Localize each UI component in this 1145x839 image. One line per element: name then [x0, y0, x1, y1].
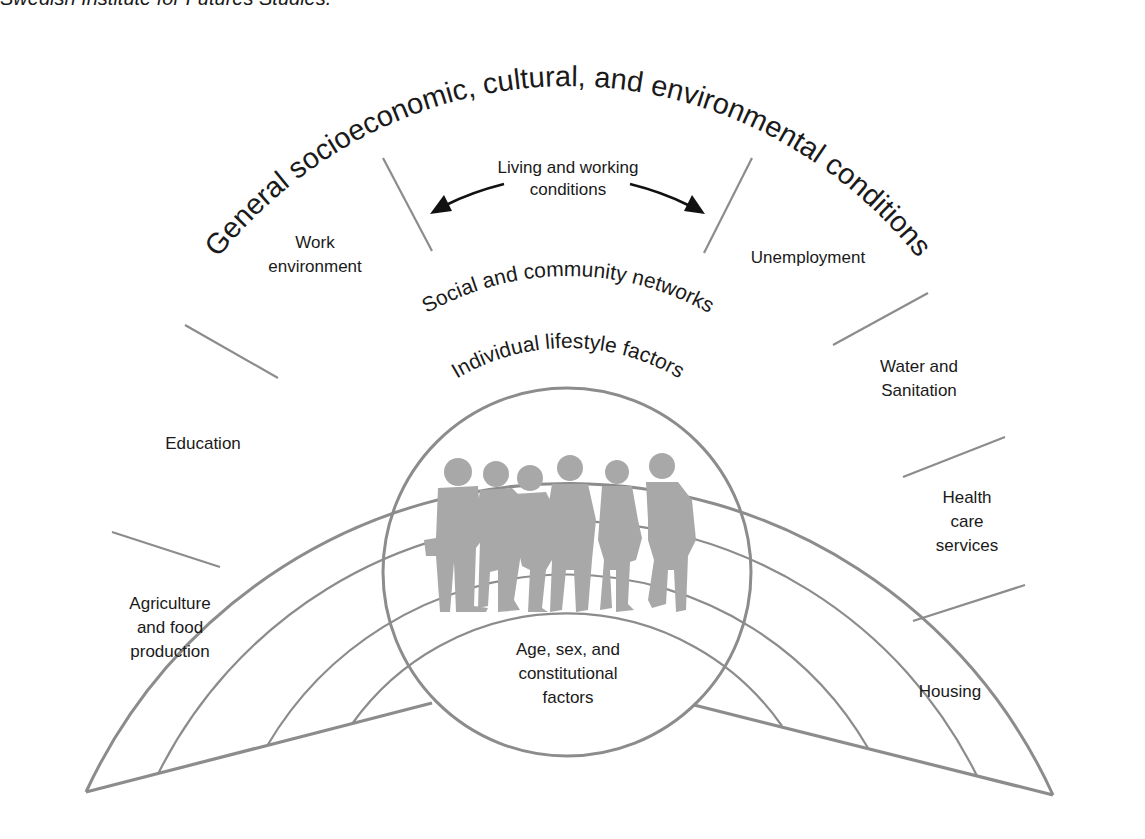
segment-housing: Housing [919, 682, 981, 701]
segment-label: and food [137, 618, 203, 637]
segment-label: Agriculture [129, 594, 210, 613]
segment-label: services [936, 536, 998, 555]
segment-work-environment: Work environment [268, 233, 362, 276]
divider-education-work [185, 325, 278, 378]
segment-label: environment [268, 257, 362, 276]
core-label: Age, sex, and constitutional factors [516, 640, 620, 707]
determinants-of-health-diagram: General socioeconomic, cultural, and env… [0, 0, 1145, 839]
base-line-left [86, 703, 432, 792]
divider-water-health [903, 437, 1005, 477]
base-lines [86, 703, 1053, 795]
segment-education: Education [165, 434, 241, 453]
segment-label: Unemployment [751, 248, 866, 267]
segment-label: Education [165, 434, 241, 453]
segment-label: care [950, 512, 983, 531]
segment-label: Sanitation [881, 381, 957, 400]
living-working-label-line1: Living and working [498, 158, 639, 177]
segment-water-sanitation: Water and Sanitation [880, 357, 958, 400]
segment-label: Work [295, 233, 335, 252]
segment-label: Water and [880, 357, 958, 376]
divider-health-housing [913, 585, 1025, 621]
layer-label-social-networks: Social and community networks [418, 257, 719, 317]
core-label-line1: Age, sex, and [516, 640, 620, 659]
divider-living-unemployment [704, 158, 752, 253]
living-working-header: Living and working conditions [430, 158, 705, 214]
base-line-right [694, 705, 1053, 795]
divider-work-living [383, 158, 432, 251]
segment-unemployment: Unemployment [751, 248, 866, 267]
group-of-people-silhouette-icon [424, 453, 696, 612]
core-label-line3: factors [542, 688, 593, 707]
divider-unemployment-water [833, 293, 928, 345]
segment-label: Housing [919, 682, 981, 701]
segment-label: production [130, 642, 209, 661]
segment-label: Health [942, 488, 991, 507]
layer-label-individual-lifestyle: Individual lifestyle factors [447, 329, 688, 382]
divider-agriculture-education [112, 532, 220, 567]
living-working-label-line2: conditions [530, 180, 607, 199]
core-label-line2: constitutional [518, 664, 617, 683]
segment-agriculture: Agriculture and food production [129, 594, 210, 661]
segment-health-care: Health care services [936, 488, 998, 555]
